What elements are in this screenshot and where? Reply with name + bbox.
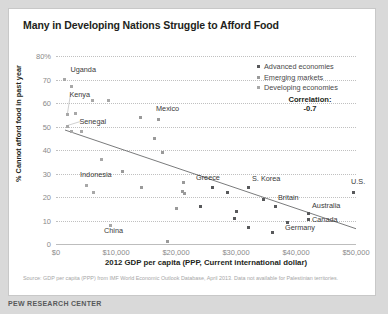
x-tick-label: $20,000 (162, 248, 189, 257)
data-point (66, 113, 69, 116)
data-point (121, 170, 124, 173)
data-point (92, 191, 95, 194)
y-axis-label: % Cannot afford food in past year (14, 49, 23, 199)
screenshot-root: Many in Developing Nations Struggle to A… (0, 0, 388, 314)
y-tick-label: 30 (43, 169, 51, 178)
data-point (271, 231, 274, 234)
x-tick-label: $10,000 (102, 248, 129, 257)
data-point (175, 207, 178, 210)
data-point (199, 205, 202, 208)
data-point (74, 112, 77, 115)
chart-figure: % Cannot afford food in past year 2012 G… (9, 9, 377, 297)
point-label: U.S. (351, 177, 365, 186)
point-label: Kenya (69, 90, 90, 99)
legend: Advanced economiesEmerging marketsDevelo… (257, 62, 338, 94)
correlation-annotation: Correlation: -0.7 (267, 95, 353, 114)
legend-item: Developing economies (257, 83, 338, 92)
y-tick-label: 40 (43, 146, 51, 155)
x-tick-label: $50,000 (342, 248, 369, 257)
point-label: Mexico (156, 104, 179, 113)
legend-label: Developing economies (264, 83, 338, 92)
point-label: Uganda (70, 65, 96, 74)
data-point (274, 205, 277, 208)
y-tick-label: 50 (43, 122, 51, 131)
data-point (182, 181, 185, 184)
data-point (233, 217, 236, 220)
point-label: Britain (278, 193, 299, 202)
brand-footer: PEW RESEARCH CENTER (8, 300, 102, 307)
data-point (307, 218, 310, 221)
y-tick-label: 0 (47, 240, 51, 249)
legend-swatch-dev (257, 86, 260, 89)
data-point (91, 99, 94, 102)
data-point (247, 226, 250, 229)
data-point (166, 240, 169, 243)
x-tick-label: $40,000 (282, 248, 309, 257)
point-label: Australia (312, 201, 340, 210)
data-point (140, 186, 143, 189)
data-point (307, 212, 310, 215)
y-tick-label: 20 (43, 193, 51, 202)
data-point (235, 210, 238, 213)
data-point (262, 198, 265, 201)
y-tick-label: 70 (43, 75, 51, 84)
legend-item: Emerging markets (257, 73, 338, 82)
data-point (107, 99, 110, 102)
legend-swatch-eme (257, 76, 260, 79)
correlation-value: -0.7 (267, 104, 353, 113)
point-label: Germany (285, 223, 315, 232)
point-label: S. Korea (252, 174, 280, 183)
data-point (183, 192, 186, 195)
data-point (70, 85, 73, 88)
data-point (211, 186, 214, 189)
chart-card: Many in Developing Nations Struggle to A… (8, 8, 376, 296)
data-point (247, 186, 250, 189)
x-tick-label: $30,000 (222, 248, 249, 257)
x-axis-line (56, 244, 356, 245)
y-tick-label: 80% (36, 52, 51, 61)
y-tick-label: 60 (43, 99, 51, 108)
y-tick-label: 10 (43, 216, 51, 225)
data-point (226, 191, 229, 194)
x-axis-label: 2012 GDP per capita (PPP, Current intern… (56, 258, 356, 267)
source-note: Source: GDP per capita (PPP) from IMF Wo… (23, 275, 338, 281)
legend-swatch-adv (257, 65, 260, 68)
data-point (85, 184, 88, 187)
data-point (161, 151, 164, 154)
point-label: Indonesia (80, 170, 112, 179)
data-point (70, 130, 73, 133)
data-point (139, 116, 142, 119)
data-point (80, 130, 83, 133)
data-point (66, 125, 69, 128)
point-label: China (104, 226, 123, 235)
point-label: Senegal (79, 117, 106, 126)
correlation-label: Correlation: (267, 95, 353, 104)
x-tick-label: $0 (52, 248, 60, 257)
legend-label: Emerging markets (264, 73, 323, 82)
data-point (63, 78, 66, 81)
data-point (100, 158, 103, 161)
data-point (153, 137, 156, 140)
legend-item: Advanced economies (257, 62, 338, 71)
data-point (157, 118, 160, 121)
point-label: Greece (196, 173, 220, 182)
point-label: Canada (312, 215, 338, 224)
legend-label: Advanced economies (264, 62, 334, 71)
data-point (352, 191, 355, 194)
